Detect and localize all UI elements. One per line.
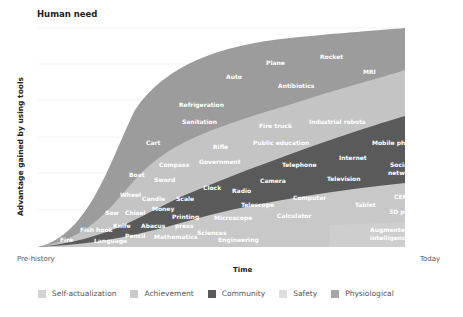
svg-text:Public education: Public education — [253, 139, 309, 146]
legend-item-achievement: Achievement — [130, 289, 193, 298]
svg-text:Fish hook: Fish hook — [80, 226, 114, 233]
chart-plot: Auto Plane Rocket MRI Antibiotics Refrig… — [0, 0, 463, 317]
svg-text:Rocket: Rocket — [320, 53, 343, 60]
svg-text:Fire truck: Fire truck — [259, 122, 293, 129]
svg-text:Knife: Knife — [113, 222, 131, 229]
svg-text:Money: Money — [152, 205, 174, 213]
legend-swatch — [208, 290, 216, 298]
svg-text:Internet: Internet — [339, 154, 367, 161]
legend-swatch — [279, 290, 287, 298]
svg-text:networks: networks — [388, 169, 420, 176]
svg-text:press: press — [175, 222, 194, 230]
legend: Self-actualization Achievement Community… — [38, 289, 408, 298]
svg-text:Rifle: Rifle — [213, 143, 228, 150]
svg-text:Government: Government — [199, 158, 241, 165]
svg-text:Auto: Auto — [226, 73, 242, 80]
legend-label: Self-actualization — [52, 289, 116, 298]
svg-text:Abacus: Abacus — [141, 222, 166, 229]
svg-text:Telescope: Telescope — [241, 201, 274, 209]
x-axis-start-label: Pre-history — [17, 255, 55, 263]
svg-text:?: ? — [421, 230, 426, 240]
svg-text:intelligence: intelligence — [370, 234, 410, 242]
svg-text:Language: Language — [94, 237, 127, 245]
svg-text:Mathematics: Mathematics — [154, 233, 198, 240]
svg-text:Radio: Radio — [232, 187, 251, 194]
svg-text:Mobile phone: Mobile phone — [372, 139, 418, 147]
svg-text:Wheel: Wheel — [120, 191, 141, 198]
svg-text:Computer: Computer — [293, 194, 326, 202]
svg-text:Calculator: Calculator — [277, 212, 311, 219]
svg-text:Candle: Candle — [142, 195, 165, 202]
legend-item-physiological: Physiological — [331, 289, 394, 298]
svg-text:Television: Television — [327, 175, 360, 182]
legend-item-safety: Safety — [279, 289, 317, 298]
legend-swatch — [130, 290, 138, 298]
legend-swatch — [38, 290, 46, 298]
legend-item-self-actualization: Self-actualization — [38, 289, 116, 298]
svg-text:3D printer: 3D printer — [389, 208, 424, 216]
svg-text:Industrial robots: Industrial robots — [309, 118, 366, 125]
legend-label: Community — [222, 289, 265, 298]
svg-text:Engineering: Engineering — [218, 236, 259, 244]
svg-text:Plane: Plane — [266, 59, 285, 66]
svg-text:Camera: Camera — [260, 177, 286, 184]
legend-swatch — [331, 290, 339, 298]
legend-item-community: Community — [208, 289, 265, 298]
svg-text:Saw: Saw — [105, 209, 119, 216]
svg-text:Cart: Cart — [146, 139, 160, 146]
svg-text:Telephone: Telephone — [282, 161, 317, 169]
legend-label: Physiological — [345, 289, 394, 298]
legend-label: Achievement — [144, 289, 193, 298]
legend-label: Safety — [293, 289, 317, 298]
x-axis-end-label: Today — [420, 255, 440, 263]
svg-text:Sword: Sword — [154, 176, 175, 183]
svg-text:Chisel: Chisel — [125, 209, 145, 216]
svg-text:Refrigeration: Refrigeration — [179, 101, 224, 109]
svg-text:Antibiotics: Antibiotics — [278, 82, 315, 89]
svg-text:Tablet: Tablet — [355, 201, 376, 208]
svg-text:Compass: Compass — [159, 161, 190, 169]
svg-text:Social: Social — [390, 161, 410, 168]
svg-text:Microscope: Microscope — [214, 214, 252, 222]
svg-text:Scale: Scale — [176, 195, 194, 202]
svg-text:Pencil: Pencil — [125, 232, 145, 239]
svg-text:Sanitation: Sanitation — [182, 118, 217, 125]
svg-text:Clock: Clock — [203, 184, 222, 191]
svg-text:Augmented: Augmented — [370, 226, 409, 234]
svg-text:MRI: MRI — [363, 68, 376, 75]
svg-text:Fire: Fire — [60, 236, 73, 243]
svg-text:Boat: Boat — [129, 171, 145, 178]
svg-text:Sciences: Sciences — [197, 229, 227, 236]
svg-text:Printing: Printing — [172, 213, 199, 221]
svg-text:CERN: CERN — [394, 193, 412, 200]
x-axis-label: Time — [233, 266, 252, 274]
